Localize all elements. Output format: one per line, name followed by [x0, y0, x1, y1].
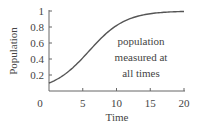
y-tick-label: 0.2 [30, 69, 44, 81]
x-tick-label: 10 [111, 97, 123, 109]
y-tick-label: 0.8 [30, 21, 44, 33]
y-tick-label: 0.4 [30, 53, 44, 65]
annotation-line: measured at [115, 51, 168, 63]
annotation-line: all times [122, 67, 160, 79]
annotation-text: populationmeasured atall times [115, 35, 168, 79]
y-axis: 0.20.40.60.81 [30, 5, 52, 91]
x-axis-title: Time [106, 111, 129, 123]
population-chart: 0.20.40.60.81 05101520 Population Time p… [0, 0, 205, 132]
x-axis: 05101520 [37, 88, 190, 109]
x-tick-label: 5 [80, 97, 86, 109]
y-tick-label: 0.6 [30, 37, 44, 49]
annotation-line: population [117, 35, 165, 47]
y-axis-title: Population [7, 27, 19, 75]
x-tick-label: 15 [145, 97, 157, 109]
x-tick-label: 0 [37, 97, 43, 109]
y-tick-label: 1 [39, 5, 45, 17]
x-tick-label: 20 [179, 97, 191, 109]
population-curve [49, 11, 184, 83]
